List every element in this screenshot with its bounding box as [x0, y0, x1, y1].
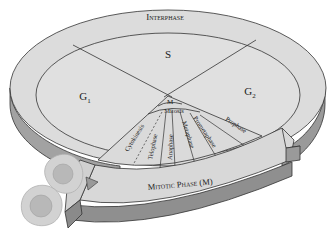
daughter-cell-2 [21, 185, 62, 225]
mitosis-label: Mitosis [164, 107, 184, 114]
interphase-label: Interphase [146, 12, 184, 22]
nucleus-icon [53, 164, 73, 184]
cell-cycle-diagram: Interphase S G1 G2 M Mitosis Cytokinesis… [0, 0, 335, 235]
s-label: S [165, 48, 171, 60]
anaphase-label: Anaphase [166, 134, 174, 160]
nucleus-icon [30, 195, 52, 217]
m-label: M [167, 98, 174, 106]
